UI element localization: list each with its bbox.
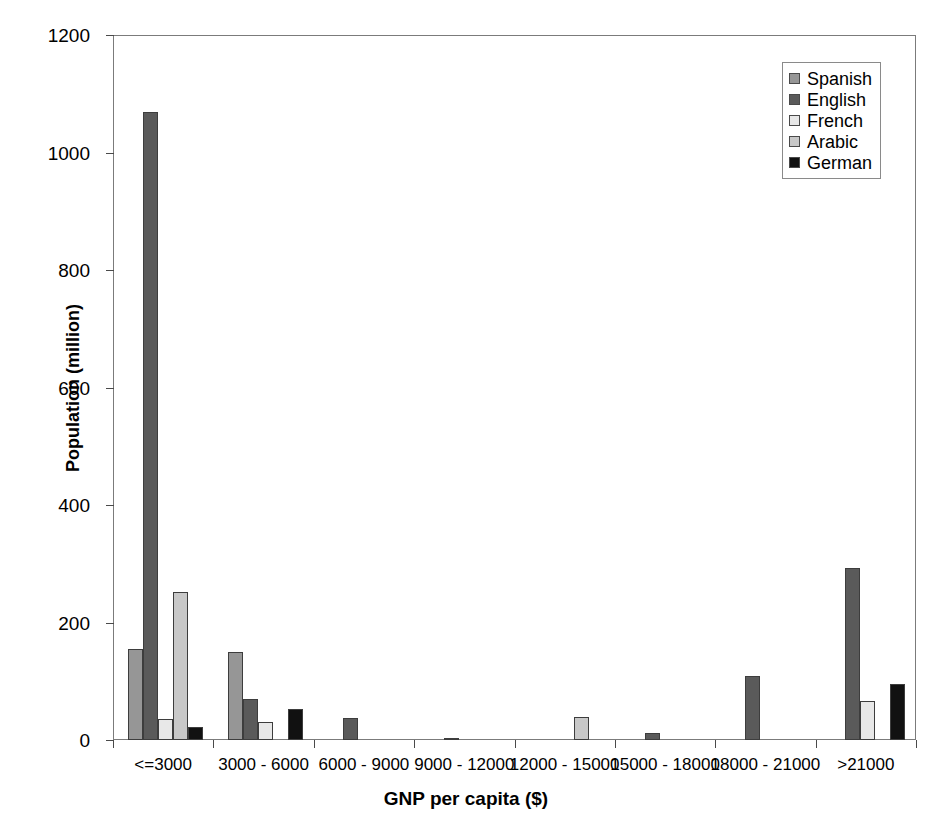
x-axis-tick-mark — [816, 740, 817, 748]
x-axis-tick-label: 6000 - 9000 — [319, 755, 410, 775]
legend-item-french: French — [789, 110, 872, 131]
legend-swatch-icon — [789, 73, 800, 84]
x-axis-tick-label: 18000 - 21000 — [711, 755, 821, 775]
legend-swatch-icon — [789, 94, 800, 105]
x-axis-tick-mark — [615, 740, 616, 748]
x-axis-tick-mark — [715, 740, 716, 748]
y-axis-tick-label: 1000 — [30, 143, 90, 162]
legend-item-english: English — [789, 89, 872, 110]
legend-item-german: German — [789, 152, 872, 173]
legend-swatch-icon — [789, 136, 800, 147]
y-axis-tick-label: 600 — [30, 378, 90, 397]
bar-german-1 — [288, 709, 303, 740]
x-axis-tick-mark — [515, 740, 516, 748]
legend-label: French — [807, 112, 863, 130]
bar-english-0 — [143, 112, 158, 740]
bar-english-3 — [444, 738, 459, 740]
y-axis-tick-label: 0 — [30, 731, 90, 750]
x-axis-tick-mark — [414, 740, 415, 748]
y-axis-tick-label: 200 — [30, 613, 90, 632]
bar-english-5 — [645, 733, 660, 740]
legend-item-arabic: Arabic — [789, 131, 872, 152]
bar-english-2 — [343, 718, 358, 740]
x-axis-tick-label: 9000 - 12000 — [414, 755, 514, 775]
bar-spanish-1 — [228, 652, 243, 740]
x-axis-tick-mark — [213, 740, 214, 748]
y-axis-tick-label: 400 — [30, 496, 90, 515]
bar-german-0 — [188, 727, 203, 740]
bar-arabic-0 — [173, 592, 188, 740]
chart-legend: SpanishEnglishFrenchArabicGerman — [782, 62, 881, 179]
legend-item-spanish: Spanish — [789, 68, 872, 89]
x-axis-tick-label: 3000 - 6000 — [218, 755, 309, 775]
y-axis-tick-label: 1200 — [30, 26, 90, 45]
x-axis-tick-label: 15000 - 18000 — [610, 755, 720, 775]
y-axis-tick-label: 800 — [30, 261, 90, 280]
bar-english-1 — [243, 699, 258, 740]
legend-label: English — [807, 91, 866, 109]
x-axis-tick-label: 12000 - 15000 — [510, 755, 620, 775]
x-axis-tick-label: >21000 — [837, 755, 894, 775]
bar-chart: Population (million) 0200400600800100012… — [0, 0, 932, 829]
x-axis-tick-mark — [916, 740, 917, 748]
legend-label: Arabic — [807, 133, 858, 151]
x-axis-tick-label: <=3000 — [134, 755, 192, 775]
bar-french-1 — [258, 722, 273, 740]
bar-english-6 — [745, 676, 760, 740]
legend-swatch-icon — [789, 115, 800, 126]
x-axis-tick-mark — [314, 740, 315, 748]
bar-english-7 — [845, 568, 860, 740]
legend-label: German — [807, 154, 872, 172]
legend-swatch-icon — [789, 157, 800, 168]
bar-german-7 — [890, 684, 905, 740]
bar-arabic-4 — [574, 717, 589, 741]
bar-spanish-0 — [128, 649, 143, 740]
x-axis-title: GNP per capita ($) — [0, 788, 932, 810]
legend-label: Spanish — [807, 70, 872, 88]
x-axis-tick-mark — [113, 740, 114, 748]
bar-french-7 — [860, 701, 875, 740]
bar-french-0 — [158, 719, 173, 740]
